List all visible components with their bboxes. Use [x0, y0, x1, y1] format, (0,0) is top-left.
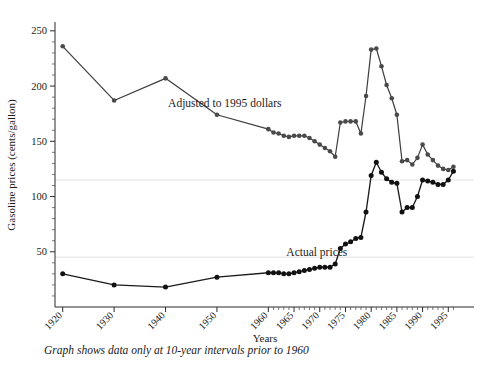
data-point: [271, 270, 276, 275]
data-point: [297, 133, 302, 138]
data-point: [359, 131, 364, 136]
data-point: [400, 159, 405, 164]
gasoline-prices-figure: 50100150200250 1920193019401950196019651…: [0, 0, 489, 366]
data-point: [323, 146, 328, 151]
data-point: [276, 131, 281, 136]
data-point: [328, 265, 333, 270]
data-point: [410, 205, 415, 210]
data-point: [312, 266, 317, 271]
data-point: [425, 152, 430, 157]
data-point: [307, 136, 312, 141]
data-point: [364, 94, 369, 99]
data-point: [410, 162, 415, 167]
data-point: [369, 173, 374, 178]
data-point: [333, 154, 338, 159]
x-tick-label: 1960: [248, 310, 270, 332]
data-point: [348, 239, 353, 244]
data-point: [112, 282, 117, 287]
data-point: [379, 170, 384, 175]
data-point: [353, 236, 358, 241]
data-point: [276, 270, 281, 275]
x-tick-label: 1950: [196, 310, 218, 332]
data-point: [384, 176, 389, 181]
x-tick-label: 1940: [145, 310, 167, 332]
data-point: [395, 112, 400, 117]
x-tick-label: 1965: [274, 310, 296, 332]
data-point: [364, 210, 369, 215]
data-point: [420, 177, 425, 182]
data-point: [286, 271, 291, 276]
data-point: [333, 261, 338, 266]
data-point: [292, 270, 297, 275]
x-tick-label: 1970: [299, 310, 321, 332]
data-point: [112, 98, 117, 103]
data-point: [322, 265, 327, 270]
data-point: [436, 182, 441, 187]
data-point: [163, 285, 168, 290]
data-point: [163, 76, 168, 81]
data-point: [271, 130, 276, 135]
data-point: [415, 156, 420, 161]
data-point: [348, 119, 353, 124]
data-point: [389, 180, 394, 185]
y-axis-tick-labels: 50100150200250: [31, 25, 47, 257]
data-point: [374, 160, 379, 165]
x-axis-tick-labels: 1920193019401950196019651970197519801985…: [42, 310, 450, 332]
data-point: [338, 120, 343, 125]
data-point: [266, 127, 271, 132]
data-point: [60, 271, 65, 276]
data-series: [60, 44, 456, 290]
data-point: [312, 139, 317, 144]
x-tick-label: 1930: [94, 310, 116, 332]
data-point: [374, 46, 379, 51]
data-point: [266, 270, 271, 275]
data-point: [317, 142, 322, 147]
data-point: [292, 133, 297, 138]
data-point: [394, 181, 399, 186]
data-point: [358, 235, 363, 240]
y-tick-label: 150: [31, 136, 47, 147]
y-tick-label: 250: [31, 25, 47, 36]
y-axis-title: Gasoline prices (cents/gallon): [5, 99, 18, 231]
figure-note: Graph shows data only at 10-year interva…: [44, 344, 309, 356]
x-axis-title: Years: [253, 332, 278, 344]
x-tick-label: 1985: [376, 310, 398, 332]
data-point: [379, 64, 384, 69]
x-tick-label: 1995: [428, 310, 450, 332]
data-point: [384, 83, 389, 88]
y-tick-label: 50: [37, 246, 48, 257]
data-point: [60, 44, 65, 49]
data-point: [343, 119, 348, 124]
series-annotation: Adjusted to 1995 dollars: [168, 97, 282, 110]
data-point: [441, 182, 446, 187]
data-point: [441, 167, 446, 172]
y-tick-label: 200: [31, 81, 47, 92]
data-point: [281, 271, 286, 276]
x-tick-label: 1975: [325, 310, 347, 332]
data-point: [430, 180, 435, 185]
data-point: [420, 142, 425, 147]
series-annotation: Actual prices: [286, 246, 348, 259]
x-tick-label: 1920: [42, 310, 64, 332]
data-point: [389, 96, 394, 101]
data-point: [400, 210, 405, 215]
data-point: [431, 158, 436, 163]
data-point: [446, 168, 451, 173]
gridlines: [55, 180, 474, 257]
data-point: [353, 119, 358, 124]
data-point: [302, 133, 307, 138]
series-annotations: Adjusted to 1995 dollarsActual prices: [168, 97, 348, 259]
data-point: [425, 179, 430, 184]
x-tick-label: 1980: [351, 310, 373, 332]
data-point: [281, 133, 286, 138]
y-tick-label: 100: [31, 191, 47, 202]
data-point: [328, 149, 333, 154]
data-point: [405, 158, 410, 163]
data-point: [451, 164, 456, 169]
data-point: [415, 194, 420, 199]
data-point: [446, 177, 451, 182]
axis-ticks: [50, 31, 453, 312]
data-point: [215, 112, 220, 117]
data-point: [297, 269, 302, 274]
data-point: [302, 268, 307, 273]
